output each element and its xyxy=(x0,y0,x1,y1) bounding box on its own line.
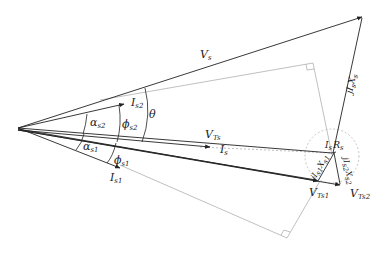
svg-text:Is1: Is1 xyxy=(109,171,122,185)
svg-text:VTs1: VTs1 xyxy=(309,186,329,200)
svg-text:Is2: Is2 xyxy=(130,96,144,110)
svg-text:Is: Is xyxy=(219,143,228,157)
svg-text:VTs: VTs xyxy=(205,128,221,142)
svg-text:θ: θ xyxy=(149,108,156,121)
phasor-diagram: Vs Is2 αs2 ϕs2 θ αs1 ϕs1 Is1 VTs Is VTs1… xyxy=(0,0,387,253)
svg-text:VTs2: VTs2 xyxy=(350,187,371,201)
svg-text:αs2: αs2 xyxy=(90,116,106,130)
alpha-s2-arc xyxy=(83,114,87,134)
is-phasor xyxy=(18,130,210,147)
svg-text:ϕs1: ϕs1 xyxy=(114,154,130,168)
svg-text:Vs: Vs xyxy=(200,48,212,62)
jIs2Xs2-phasor xyxy=(334,153,340,184)
is2-phasor xyxy=(18,104,124,128)
vs-phasor xyxy=(18,17,362,128)
IsRs-phasor xyxy=(332,152,336,153)
labels: Vs Is2 αs2 ϕs2 θ αs1 ϕs1 Is1 VTs Is VTs1… xyxy=(83,48,371,201)
svg-text:ϕs2: ϕs2 xyxy=(122,118,138,132)
svg-text:jIs1Xs1: jIs1Xs1 xyxy=(308,153,332,184)
vts-phasor xyxy=(18,128,332,153)
phasors xyxy=(18,17,362,185)
vts2-phasor xyxy=(18,130,340,185)
is1-phasor xyxy=(18,128,120,168)
theta-arc xyxy=(142,88,148,142)
svg-text:jIsXs: jIsXs xyxy=(344,72,360,96)
